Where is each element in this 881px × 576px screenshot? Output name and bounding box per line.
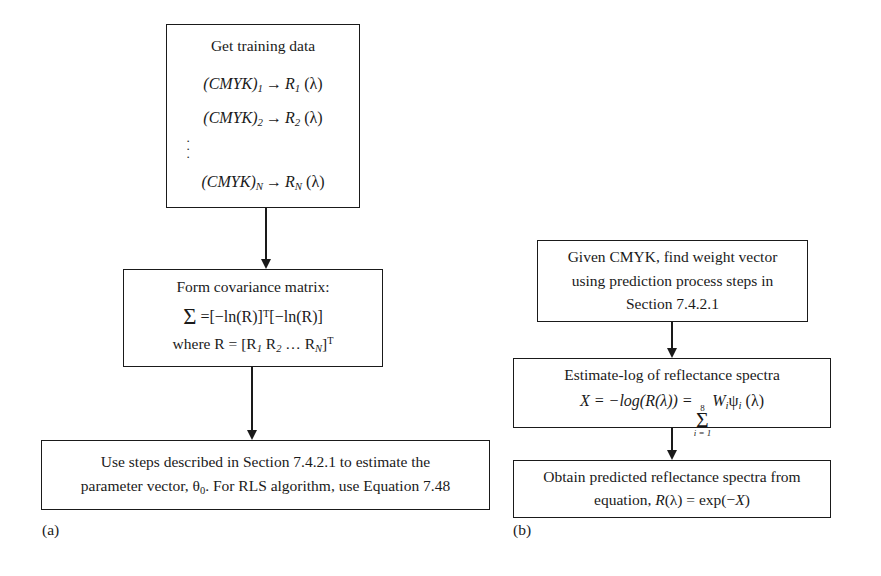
reflectance-subscript-n: N bbox=[295, 180, 302, 192]
arrow-shaft bbox=[251, 367, 253, 430]
lambda-arg-estimate: (λ) bbox=[746, 392, 764, 409]
vertical-ellipsis: ··· bbox=[167, 137, 359, 161]
lambda-arg-2: (λ) bbox=[304, 109, 322, 126]
weight-term: W bbox=[712, 392, 725, 409]
panel-label-a: (a) bbox=[42, 521, 59, 539]
training-mapping-row-1: (CMYK)1→R1 (λ) bbox=[203, 73, 322, 96]
reflectance-subscript-2: 2 bbox=[295, 116, 300, 128]
reflectance-term-n: R bbox=[285, 173, 295, 190]
given-cmyk-line-2: using prediction process steps in bbox=[572, 271, 773, 292]
where-prefix: where R = [R bbox=[173, 335, 257, 352]
ellipsis-dot-2: · bbox=[186, 145, 359, 153]
flow-box-estimate-log-reflectance: Estimate-log of reflectance spectra X = … bbox=[513, 358, 831, 428]
lambda-arg-1: (λ) bbox=[304, 75, 322, 92]
box-title-form-covariance: Form covariance matrix: bbox=[176, 277, 329, 298]
reflectance-subscript-1: 1 bbox=[295, 82, 300, 94]
flow-arrow-training-to-covariance bbox=[259, 208, 273, 269]
psi-term: ψ bbox=[729, 392, 739, 409]
reflectance-term-2: R bbox=[285, 109, 295, 126]
given-cmyk-line-3: Section 7.4.2.1 bbox=[626, 294, 719, 315]
psi-subscript: i bbox=[739, 399, 742, 411]
sigma-symbol: Σ bbox=[183, 303, 196, 328]
obtain-line-2: equation, R(λ) = exp(−X) bbox=[594, 490, 750, 511]
x-symbol: X bbox=[735, 491, 744, 508]
equation-lhs: X = −log(R(λ)) = bbox=[580, 392, 693, 409]
arrow-head-icon bbox=[261, 259, 271, 269]
given-cmyk-line-1: Given CMYK, find weight vector bbox=[568, 247, 778, 268]
arrow-head-icon bbox=[667, 348, 677, 358]
ellipsis-dot-3: · bbox=[186, 153, 359, 161]
summation-lower-limit: i = 1 bbox=[694, 429, 711, 438]
covariance-equation: Σ =[−ln(R)]T[−ln(R)] bbox=[183, 306, 323, 327]
panel-label-b: (b) bbox=[513, 521, 531, 539]
flow-box-get-training-data: Get training data (CMYK)1→R1 (λ) (CMYK)2… bbox=[166, 24, 360, 208]
transpose-superscript-2: T bbox=[327, 336, 333, 347]
reflectance-symbol: R bbox=[655, 491, 664, 508]
training-mapping-row-n: (CMYK)N→RN (λ) bbox=[202, 171, 325, 194]
arrow-shaft bbox=[671, 322, 673, 348]
flow-box-obtain-predicted-reflectance: Obtain predicted reflectance spectra fro… bbox=[513, 460, 831, 518]
ellipsis-dot-1: · bbox=[186, 137, 359, 145]
use-steps-line-1: Use steps described in Section 7.4.2.1 t… bbox=[101, 452, 430, 473]
reflectance-term-1: R bbox=[285, 75, 295, 92]
maps-to-arrow-n: → bbox=[263, 173, 285, 190]
obtain-line-1: Obtain predicted reflectance spectra fro… bbox=[543, 467, 800, 488]
covariance-eq-part1: =[−ln(R)] bbox=[200, 308, 262, 325]
training-mapping-row-2: (CMYK)2→R2 (λ) bbox=[203, 107, 322, 130]
flow-box-given-cmyk: Given CMYK, find weight vector using pre… bbox=[537, 240, 808, 322]
arrow-head-icon bbox=[247, 430, 257, 440]
arrow-head-icon bbox=[667, 450, 677, 460]
exp-expression: (λ) = exp(− bbox=[665, 491, 736, 508]
where-mid: R bbox=[262, 335, 276, 352]
covariance-where-clause: where R = [R1 R2 … RN]T bbox=[173, 334, 334, 356]
arrow-shaft bbox=[265, 208, 267, 259]
figure-canvas: Get training data (CMYK)1→R1 (λ) (CMYK)2… bbox=[0, 0, 881, 576]
box-title-estimate-log: Estimate-log of reflectance spectra bbox=[564, 365, 780, 386]
cmyk-term-n: (CMYK) bbox=[202, 173, 256, 190]
rls-equation-suffix: . For RLS algorithm, use Equation 7.48 bbox=[205, 477, 450, 494]
where-sub-n: N bbox=[315, 343, 322, 354]
flow-box-use-steps-estimate: Use steps described in Section 7.4.2.1 t… bbox=[41, 440, 490, 510]
flow-box-form-covariance-matrix: Form covariance matrix: Σ =[−ln(R)]T[−ln… bbox=[123, 269, 383, 367]
equation-prefix: equation, bbox=[594, 491, 655, 508]
exp-close-paren: ) bbox=[745, 491, 750, 508]
cmyk-term-2: (CMYK) bbox=[203, 109, 257, 126]
box-title-get-training-data: Get training data bbox=[211, 36, 315, 57]
cmyk-subscript-n: N bbox=[256, 180, 263, 192]
maps-to-arrow-2: → bbox=[263, 109, 285, 126]
cmyk-term-1: (CMYK) bbox=[203, 75, 257, 92]
use-steps-line-2: parameter vector, θ0. For RLS algorithm,… bbox=[81, 476, 450, 498]
maps-to-arrow-1: → bbox=[263, 75, 285, 92]
arrow-shaft bbox=[671, 428, 673, 450]
parameter-vector-prefix: parameter vector, θ bbox=[81, 477, 200, 494]
flow-arrow-estimate-to-obtain bbox=[665, 428, 679, 460]
where-dots: … R bbox=[281, 335, 315, 352]
lambda-arg-n: (λ) bbox=[306, 173, 324, 190]
summation-operator: 8Σi = 1 bbox=[694, 404, 711, 438]
covariance-eq-part2: [−ln(R)] bbox=[269, 308, 322, 325]
flow-arrow-given-to-estimate bbox=[665, 322, 679, 358]
flow-arrow-covariance-to-steps bbox=[245, 367, 259, 440]
